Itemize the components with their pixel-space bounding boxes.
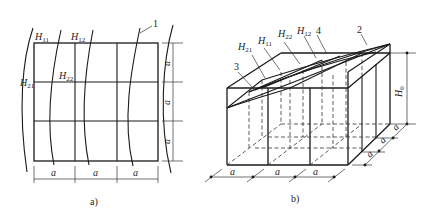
label-H21: H21 [19, 77, 35, 90]
dim-v-label-1: a [161, 61, 172, 66]
front-tick-1 [210, 176, 213, 179]
callout-2-label: 2 [357, 24, 362, 35]
dim-front-label-1: a [230, 166, 235, 177]
dim-front-ext-3 [289, 169, 306, 182]
label-H12: H12 [70, 31, 86, 44]
label-b-H22: H22 [277, 28, 293, 41]
label-b-H12: H12 [296, 25, 312, 38]
callout-4-leader [317, 35, 327, 54]
label-H0: H0 [393, 86, 406, 98]
dim-v-label-3: a [161, 139, 172, 144]
label-b-H21: H21 [237, 41, 253, 54]
panel-a-grid-outline [34, 43, 158, 161]
dim-front-ext-4 [328, 169, 345, 182]
hidden-diag-2 [268, 124, 322, 165]
depth-tick-1 [364, 164, 367, 167]
front-tick-4 [333, 176, 336, 179]
panel-b-caption: b) [291, 193, 299, 205]
depth-tick-2 [378, 150, 381, 153]
callout-1-leader [140, 26, 152, 33]
dim-h-label-2: a [93, 167, 98, 178]
dim-front-label-2: a [275, 166, 280, 177]
dim-h-label-1: a [51, 167, 56, 178]
callout-1-label: 1 [153, 18, 158, 29]
dim-depth-label-3: a [390, 121, 401, 132]
front-tick-3 [294, 176, 297, 179]
surface-curve-a [227, 88, 290, 108]
hidden-diag-1 [227, 124, 281, 165]
callout-2-leader [361, 34, 367, 45]
dim-front-ext-1 [205, 169, 222, 182]
H21-leader [252, 55, 265, 78]
label-H11: H11 [34, 31, 49, 44]
dim-depth-label-2: a [377, 134, 388, 145]
contour-curve-1 [22, 28, 33, 172]
H12-leader [304, 36, 316, 58]
front-tick-2 [252, 176, 255, 179]
panel-a-caption: a) [90, 196, 98, 208]
dim-front-ext-2 [247, 169, 264, 182]
H0-tick-top [406, 52, 409, 55]
H11-leader [264, 48, 280, 70]
callout-4-label: 4 [316, 25, 321, 36]
surface-diag-1 [249, 60, 322, 92]
callout-3-label: 3 [234, 61, 239, 72]
dim-v-label-2: a [161, 100, 172, 105]
diagram-canvas: 1 H11 H12 H22 H21 a a a a a a a) [0, 0, 429, 216]
contour-curve-5 [163, 25, 173, 173]
contour-curve-2 [50, 30, 61, 165]
depth-tick-3 [392, 137, 395, 140]
contour-curve-4 [128, 28, 140, 166]
dim-front-label-3: a [313, 166, 318, 177]
label-b-H11: H11 [257, 35, 272, 48]
contour-curve-3 [84, 30, 93, 165]
label-H22: H22 [58, 70, 74, 83]
panel-b: 3 4 2 H21 H11 H22 H12 H0 a a a [205, 24, 416, 205]
dim-depth-label-1: a [364, 148, 375, 159]
dim-h-label-3: a [133, 167, 138, 178]
panel-a: 1 H11 H12 H22 H21 a a a a a a a) [19, 18, 183, 208]
